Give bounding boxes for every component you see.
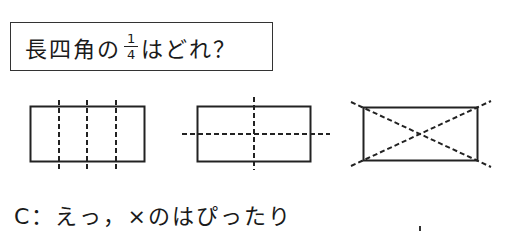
dialogue-line: C：えっ，×のはぴったり (14, 198, 292, 230)
question-prefix: 長四角の (25, 31, 121, 63)
speaker-label: C (14, 204, 31, 229)
rectangle-diagonals-icon (336, 80, 516, 180)
rectangle-vertical-strips-icon (0, 80, 170, 180)
speaker-separator: ： (31, 204, 55, 229)
fraction-denominator: 4 (127, 47, 135, 61)
cropped-mark (419, 226, 421, 231)
fraction-numerator: 1 (124, 32, 138, 47)
fraction-one-quarter: 1 4 (124, 32, 138, 61)
dialogue-text: えっ，×のはぴったり (55, 204, 291, 229)
figure-row (0, 80, 516, 180)
question-suffix: はどれ？ (141, 31, 237, 63)
rectangle-quadrants-icon (170, 80, 336, 180)
question-box: 長四角の 1 4 はどれ？ (10, 22, 273, 71)
